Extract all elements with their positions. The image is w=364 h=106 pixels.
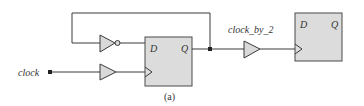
flipflop-1-q-label: Q (181, 43, 189, 54)
flipflop-2-d-label: D (299, 19, 308, 30)
flipflop-1-d-label: D (149, 43, 158, 54)
clock-buffer-gate (100, 64, 116, 80)
output-buffer-gate (244, 41, 260, 58)
circuit-diagram: D Q clock_by_2 D Q clock (a) (0, 0, 364, 106)
clock-input-terminal (48, 70, 52, 74)
flipflop-2-q-label: Q (331, 19, 339, 30)
clock-label: clock (18, 67, 40, 78)
inverter-bubble (115, 41, 120, 46)
inverter-gate (100, 35, 115, 52)
figure-caption: (a) (164, 91, 175, 103)
junction-dot (208, 47, 212, 51)
clock-by-2-label: clock_by_2 (228, 24, 274, 35)
